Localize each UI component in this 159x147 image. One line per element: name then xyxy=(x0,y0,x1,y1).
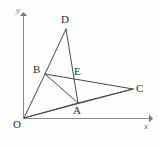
point-label-D: D xyxy=(61,14,69,25)
point-label-A: A xyxy=(73,105,81,116)
segment-BD xyxy=(45,29,66,74)
segment-BC xyxy=(45,74,133,89)
y-axis-arrowhead xyxy=(20,12,27,16)
point-label-O: O xyxy=(13,119,21,130)
segment-OB xyxy=(24,74,45,118)
x-axis-arrowhead xyxy=(149,115,153,123)
geometry-figure: D B E C A O y x xyxy=(0,0,159,147)
x-axis-label: x xyxy=(144,122,148,131)
y-axis-label: y xyxy=(16,6,20,15)
segment-AC xyxy=(78,89,133,103)
point-label-B: B xyxy=(33,64,40,75)
point-label-E: E xyxy=(74,66,81,77)
point-label-C: C xyxy=(136,83,143,94)
